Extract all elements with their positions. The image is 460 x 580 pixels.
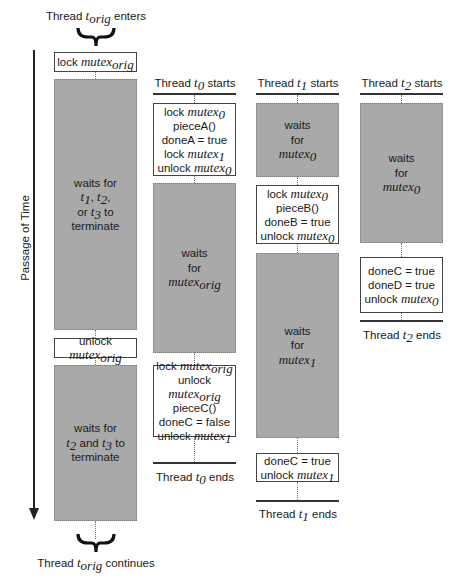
t1-wait-block-1: waits for mutex0 [256, 103, 339, 177]
t1-connector [297, 177, 298, 185]
t2-connector [401, 313, 402, 320]
orig-wait-block-1: waits for t1, t2, or t3 to terminate [54, 79, 137, 330]
t0-connector [194, 95, 195, 103]
t1-end-line [256, 500, 339, 502]
time-axis-arrowhead-icon [29, 508, 39, 520]
t2-end-label: Thread t2 ends [357, 327, 447, 343]
t1-connector [297, 438, 298, 453]
t2-start-label: Thread t2 starts [357, 75, 447, 91]
t1-connector [297, 95, 298, 103]
t0-start-label: Thread t0 starts [150, 75, 240, 91]
t1-critical-box-1: lock mutex0 pieceB() doneB = true unlock… [256, 185, 339, 244]
t2-connector [401, 95, 402, 103]
t2-critical-box: doneC = true doneD = true unlock mutex0 [360, 257, 443, 313]
orig-unlock-box: unlock mutexorig [54, 338, 137, 358]
t0-connector [194, 437, 195, 462]
t0-end-label: Thread t0 ends [150, 469, 240, 485]
t1-critical-box-2: doneC = true unlock mutex1 [256, 453, 339, 482]
time-axis-line [33, 50, 35, 512]
t0-critical-box-1: lock mutex0 pieceA() doneA = true lock m… [153, 103, 236, 176]
t1-wait-block-2: waits for mutex1 [256, 253, 339, 438]
t0-end-line [153, 462, 236, 464]
t0-connector [194, 176, 195, 183]
orig-continue-label: Thread torig continues [30, 555, 162, 571]
orig-wait-block-2: waits for t2 and t3 to terminate [54, 365, 137, 521]
orig-connector [95, 358, 96, 365]
t2-connector [401, 243, 402, 257]
orig-lock-box: lock mutexorig [54, 52, 137, 72]
t2-wait-block: waits for mutex0 [360, 103, 443, 243]
time-axis-label: Passage of Time [19, 193, 31, 283]
t0-wait-block: waits for mutexorig [153, 183, 236, 353]
t1-end-label: Thread t1 ends [253, 506, 343, 522]
brace-bottom-icon [76, 532, 116, 554]
t1-start-label: Thread t1 starts [253, 75, 343, 91]
orig-enter-label: Thread torig enters [40, 8, 152, 24]
t2-end-line [360, 320, 443, 322]
brace-top-icon [76, 26, 116, 48]
t1-connector [297, 244, 298, 253]
t0-critical-box-2: lock mutexorig unlock mutexorig pieceC()… [153, 365, 236, 437]
t1-connector [297, 482, 298, 500]
orig-connector [95, 72, 96, 79]
